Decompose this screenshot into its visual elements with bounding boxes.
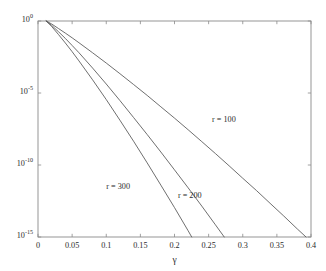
x-tick-label: 0.4 — [296, 242, 326, 250]
series-label-r300: r = 300 — [106, 183, 130, 191]
series-label-r200: r = 200 — [178, 192, 202, 200]
y-tick-label: 10-10 — [2, 160, 33, 168]
x-tick-label: 0.2 — [160, 242, 190, 250]
x-tick-label: 0 — [23, 242, 53, 250]
x-tick-label: 0.3 — [228, 242, 258, 250]
x-tick-label: 0.35 — [262, 242, 292, 250]
y-tick-label: 10-15 — [2, 232, 33, 240]
series-label-r100: r = 100 — [212, 116, 236, 124]
figure-container: 100 10-5 10-10 10-15 0 0.05 0.1 0.15 0.2… — [0, 0, 326, 271]
x-axis-title: γ — [155, 255, 195, 265]
x-tick-label: 0.25 — [194, 242, 224, 250]
y-tick-label: 10-5 — [2, 88, 33, 96]
y-tick-label: 100 — [2, 16, 33, 24]
plot-frame — [38, 21, 311, 237]
x-tick-label: 0.15 — [125, 242, 155, 250]
x-tick-label: 0.05 — [57, 242, 87, 250]
chart-canvas — [0, 0, 326, 271]
x-tick-label: 0.1 — [91, 242, 121, 250]
